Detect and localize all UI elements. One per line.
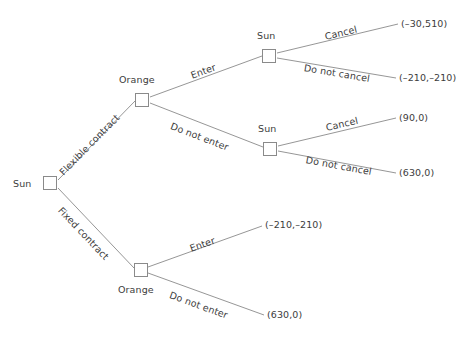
payoff-flexible-no-enter-cancel: (90,0) [399, 112, 428, 123]
payoff-flexible-enter-cancel: (–30,510) [401, 18, 447, 29]
payoff-fixed-do-not-enter: (630,0) [267, 309, 302, 320]
game-tree-diagram: Sun Orange Sun Sun Orange Flexible contr… [0, 0, 471, 343]
edge-line-fixed-contract [58, 188, 134, 268]
node-sun-mid[interactable] [263, 142, 277, 156]
node-orange-bottom[interactable] [134, 263, 148, 277]
node-label-sun-mid: Sun [258, 123, 276, 134]
payoff-flexible-enter-do-not-cancel: (–210,–210) [399, 72, 456, 83]
node-orange-top[interactable] [135, 93, 149, 107]
node-label-sun-top: Sun [257, 30, 275, 41]
node-root-sun[interactable] [43, 176, 57, 190]
node-label-root-sun: Sun [13, 178, 31, 189]
node-label-orange-top: Orange [119, 74, 155, 85]
node-label-orange-bottom: Orange [118, 284, 154, 295]
payoff-fixed-enter: (–210,–210) [265, 219, 322, 230]
payoff-flexible-no-enter-no-cancel: (630,0) [399, 167, 434, 178]
edge-line-enter-top [150, 56, 262, 97]
node-sun-top[interactable] [262, 49, 276, 63]
